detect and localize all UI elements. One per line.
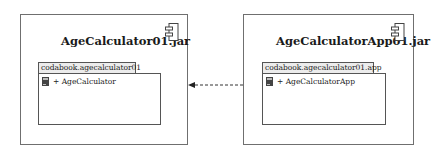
dependency-arrow[interactable] xyxy=(0,0,433,154)
